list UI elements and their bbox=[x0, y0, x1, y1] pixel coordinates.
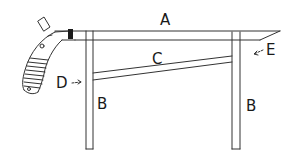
label-b-left: B bbox=[97, 97, 107, 112]
pointer-d-arrow bbox=[72, 80, 81, 84]
label-b-right: B bbox=[246, 99, 256, 114]
handle-tip-box bbox=[38, 17, 50, 31]
diagram-canvas: A C D E B B bbox=[0, 0, 307, 161]
brace-c bbox=[93, 56, 232, 80]
diagram-drawing bbox=[0, 0, 307, 161]
right-leg-b bbox=[232, 32, 240, 149]
handle-band bbox=[68, 29, 73, 39]
top-rail-a bbox=[55, 31, 280, 40]
label-d: D bbox=[56, 76, 68, 91]
label-a: A bbox=[160, 13, 170, 28]
label-e: E bbox=[266, 43, 275, 58]
label-c: C bbox=[152, 52, 162, 67]
pointer-e-arrow bbox=[254, 50, 263, 55]
left-leg-b bbox=[86, 31, 93, 149]
